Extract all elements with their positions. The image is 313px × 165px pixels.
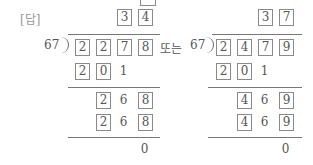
division-bar bbox=[68, 34, 160, 35]
step2a-digit-box[interactable]: 9 bbox=[279, 92, 294, 109]
dividend-digit-box[interactable]: 7 bbox=[258, 39, 273, 56]
subtraction-line bbox=[68, 87, 160, 88]
quotient-digit-box[interactable]: 3 bbox=[117, 9, 132, 26]
dividend-digit-box[interactable]: 4 bbox=[237, 39, 252, 56]
step2b-digit-box[interactable]: 4 bbox=[237, 114, 252, 131]
step1-digit-box[interactable]: 2 bbox=[75, 63, 90, 80]
step2a-digit-box[interactable]: 2 bbox=[96, 92, 111, 109]
quotient-digit-box[interactable]: 4 bbox=[138, 9, 153, 26]
quotient-digit-box[interactable]: 3 bbox=[258, 9, 273, 26]
subtraction-line bbox=[208, 87, 302, 88]
step2a-digit-box[interactable]: 4 bbox=[237, 92, 252, 109]
partial-box-top bbox=[140, 0, 156, 6]
dividend-digit-box[interactable]: 2 bbox=[75, 39, 90, 56]
step2b-digit: 6 bbox=[258, 115, 271, 130]
quotient-digit-box[interactable]: 7 bbox=[279, 9, 294, 26]
step2a-digit: 6 bbox=[117, 93, 130, 108]
dividend-digit-box[interactable]: 2 bbox=[96, 39, 111, 56]
dividend-digit-box[interactable]: 8 bbox=[138, 39, 153, 56]
answer-label: [답] bbox=[20, 10, 40, 27]
dividend-digit-box[interactable]: 2 bbox=[216, 39, 231, 56]
division-bracket bbox=[60, 37, 69, 53]
step2b-digit-box[interactable]: 9 bbox=[279, 114, 294, 131]
remainder: 0 bbox=[279, 142, 292, 157]
dividend-digit-box[interactable]: 9 bbox=[279, 39, 294, 56]
step2a-digit: 6 bbox=[258, 93, 271, 108]
step1-digit-box[interactable]: 0 bbox=[237, 63, 252, 80]
division-bracket bbox=[205, 37, 214, 53]
step1-digit-box[interactable]: 0 bbox=[96, 63, 111, 80]
divisor: 67 bbox=[44, 38, 59, 52]
divisor: 67 bbox=[190, 38, 205, 52]
subtraction-line bbox=[208, 137, 302, 138]
step1-digit-box[interactable]: 2 bbox=[216, 63, 231, 80]
step2b-digit-box[interactable]: 8 bbox=[138, 114, 153, 131]
step1-digit: 1 bbox=[258, 64, 271, 79]
remainder: 0 bbox=[138, 142, 151, 157]
subtraction-line bbox=[68, 137, 160, 138]
division-bar bbox=[212, 34, 302, 35]
step2a-digit-box[interactable]: 8 bbox=[138, 92, 153, 109]
dividend-digit-box[interactable]: 7 bbox=[117, 39, 132, 56]
step2b-digit-box[interactable]: 2 bbox=[96, 114, 111, 131]
connector-text: 또는 bbox=[160, 39, 182, 56]
step1-digit: 1 bbox=[117, 64, 130, 79]
step2b-digit: 6 bbox=[117, 115, 130, 130]
